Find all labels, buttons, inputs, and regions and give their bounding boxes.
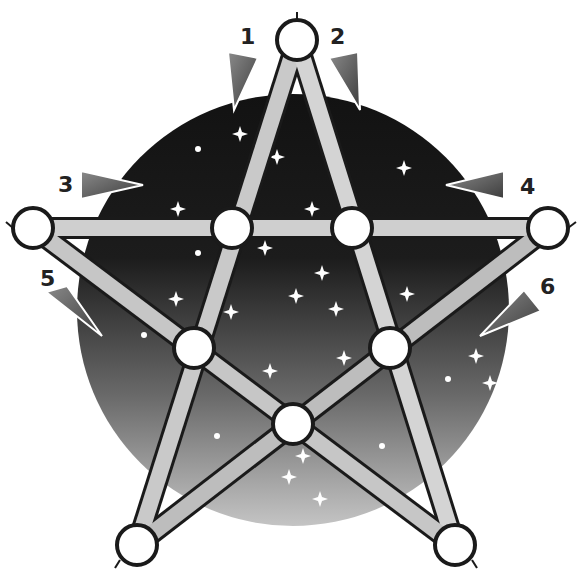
node-inner-top-right[interactable] bbox=[332, 208, 372, 248]
diagram-canvas bbox=[0, 0, 588, 581]
arrow-label-1: 1 bbox=[240, 26, 255, 48]
node-left-outer[interactable] bbox=[13, 208, 53, 248]
arrow-label-4: 4 bbox=[520, 176, 535, 198]
node-inner-bottom[interactable] bbox=[273, 404, 313, 444]
node-bottom-right[interactable] bbox=[435, 525, 475, 565]
node-inner-mid-right[interactable] bbox=[370, 328, 410, 368]
arrow-label-6: 6 bbox=[540, 276, 555, 298]
arrow-label-5: 5 bbox=[40, 268, 55, 290]
node-top[interactable] bbox=[277, 20, 317, 60]
arrow-label-3: 3 bbox=[58, 174, 73, 196]
arrow-label-2: 2 bbox=[330, 26, 345, 48]
node-right-outer[interactable] bbox=[528, 208, 568, 248]
pentagram-diagram: 1 2 3 4 5 6 bbox=[0, 0, 588, 581]
node-inner-mid-left[interactable] bbox=[174, 328, 214, 368]
node-inner-top-left[interactable] bbox=[212, 208, 252, 248]
node-bottom-left[interactable] bbox=[117, 525, 157, 565]
